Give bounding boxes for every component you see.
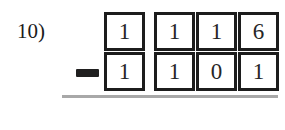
answer-rule-line	[62, 95, 278, 98]
minuend-row: 1 1 1 6	[104, 12, 279, 51]
minuend-digit-box-ones[interactable]: 6	[238, 12, 279, 51]
subtrahend-digit-box-hundreds[interactable]: 1	[154, 52, 195, 91]
minuend-digit-box-tens[interactable]: 1	[196, 12, 237, 51]
subtraction-problem: 10) 1 1 1 6 1 1 0 1	[0, 0, 285, 130]
minuend-digit-box-hundreds[interactable]: 1	[154, 12, 195, 51]
minuend-digit-box-thousands[interactable]: 1	[104, 12, 145, 51]
subtrahend-digit-box-tens[interactable]: 0	[196, 52, 237, 91]
minus-sign-icon	[76, 69, 99, 77]
subtrahend-row: 1 1 0 1	[104, 52, 279, 91]
subtrahend-digit-box-ones[interactable]: 1	[238, 52, 279, 91]
problem-number-label: 10)	[17, 19, 45, 43]
subtrahend-digit-box-thousands[interactable]: 1	[104, 52, 145, 91]
